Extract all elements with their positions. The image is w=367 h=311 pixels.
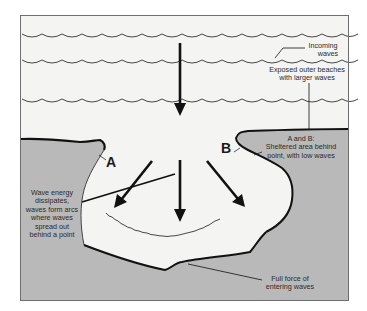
sheltered-area-label: A and B: Sheltered area behind point, wi… bbox=[255, 135, 347, 160]
full-force-line-2: entering waves bbox=[255, 283, 325, 291]
full-force-label: Full force of entering waves bbox=[255, 275, 325, 292]
sheltered-line-3: point, with low waves bbox=[255, 152, 347, 160]
wave-energy-label: Wave energy dissipates, waves form arcs … bbox=[22, 189, 82, 239]
incoming-waves-label: Incoming waves bbox=[302, 42, 344, 59]
wave-energy-line-6: behind a point bbox=[22, 231, 82, 239]
point-a-label: A bbox=[106, 154, 116, 170]
incoming-waves-line-2: waves bbox=[302, 50, 344, 58]
wave-refraction-diagram: Incoming waves Exposed outer beaches wit… bbox=[0, 0, 367, 311]
point-b-label: B bbox=[221, 140, 231, 156]
exposed-beaches-line-2: with larger waves bbox=[262, 74, 352, 82]
exposed-beaches-label: Exposed outer beaches with larger waves bbox=[262, 66, 352, 83]
